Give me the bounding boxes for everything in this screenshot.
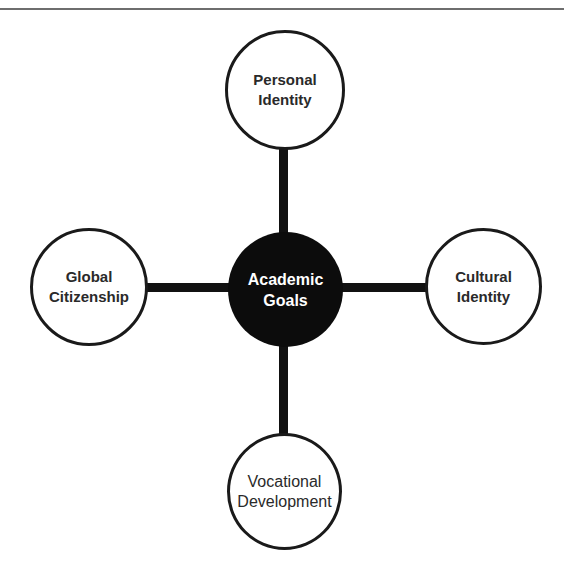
node-cultural-identity: Cultural Identity xyxy=(425,228,542,345)
node-global-citizenship: Global Citizenship xyxy=(30,228,148,346)
node-label-line1: Academic xyxy=(248,269,324,290)
node-label-line1: Cultural xyxy=(455,267,512,287)
node-label: Personal Identity xyxy=(253,70,316,110)
top-divider-rule xyxy=(0,8,564,10)
node-personal-identity: Personal Identity xyxy=(225,30,345,150)
node-label: Academic Goals xyxy=(248,269,324,311)
node-label-line2: Identity xyxy=(455,287,512,307)
node-label-line1: Vocational xyxy=(237,472,331,492)
connector-left xyxy=(143,283,233,292)
node-label: Global Citizenship xyxy=(49,267,129,307)
node-vocational-development: Vocational Development xyxy=(227,433,342,550)
node-label-line1: Global xyxy=(49,267,129,287)
node-academic-goals: Academic Goals xyxy=(228,232,343,347)
node-label-line1: Personal xyxy=(253,70,316,90)
node-label-line2: Development xyxy=(237,492,331,512)
node-label-line2: Identity xyxy=(253,90,316,110)
node-label-line2: Citizenship xyxy=(49,287,129,307)
connector-top xyxy=(279,145,288,237)
connector-right xyxy=(338,283,430,292)
connector-bottom xyxy=(279,343,288,438)
node-label: Cultural Identity xyxy=(455,267,512,307)
node-label: Vocational Development xyxy=(237,472,331,512)
node-label-line2: Goals xyxy=(248,290,324,311)
